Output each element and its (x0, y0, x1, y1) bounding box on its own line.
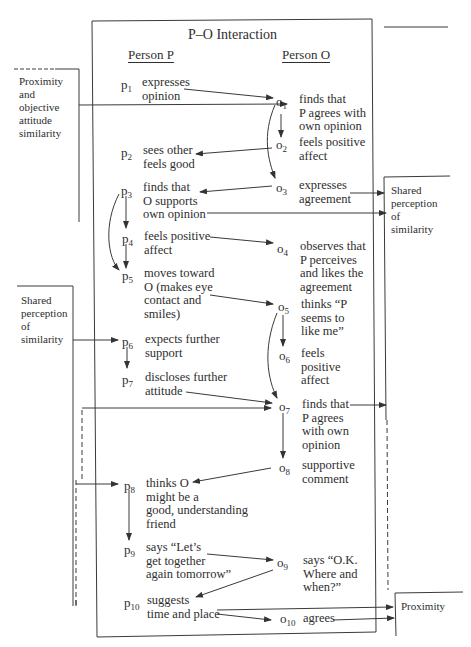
p2-text: sees other feels good (143, 144, 195, 171)
p6-text: expects further support (145, 333, 220, 360)
o10-text: agrees (303, 612, 335, 626)
o9-label: o9 (277, 556, 288, 575)
p5-label: p5 (122, 269, 133, 288)
p7-label: p7 (122, 373, 133, 392)
o2-label: o2 (276, 138, 287, 157)
o2-text: feels positive affect (299, 136, 365, 163)
o5-label: o5 (278, 300, 289, 319)
right-bottom-box (395, 592, 463, 593)
o4-text: observes that P perceives and likes the … (300, 240, 366, 294)
p6-label: p6 (122, 335, 133, 354)
o3-label: o3 (276, 181, 287, 200)
p4-text: feels positive affect (144, 230, 210, 257)
p3-text: finds that O supports own opinion (143, 181, 206, 222)
p10-text: suggests time and place (147, 594, 220, 621)
p1-text: expresses opinion (142, 76, 190, 103)
diagram-connectors (0, 0, 471, 647)
p8-text: thinks O might be a good, understanding … (146, 477, 248, 531)
p4-label: p4 (122, 232, 133, 251)
o7-label: o7 (279, 400, 290, 419)
right-box-shared-perception: Shared perception of similarity (391, 184, 437, 236)
p7-text: discloses further attitude (145, 371, 227, 398)
o6-label: o6 (279, 349, 290, 368)
o8-text: supportive comment (302, 459, 355, 486)
column-header-person-p: Person P (128, 48, 174, 62)
o8-label: o8 (279, 461, 290, 480)
o1-label: o1 (276, 95, 287, 114)
p10-label: p10 (124, 596, 140, 615)
diagram-title: P–O Interaction (188, 28, 277, 42)
o5-text: thinks “P seems to like me” (301, 298, 347, 339)
p9-label: p9 (124, 543, 135, 562)
p5-text: moves toward O (makes eye contact and sm… (144, 267, 214, 321)
left-box-proximity-similarity: Proximity and objective attitude similar… (19, 75, 63, 140)
p3-label: p3 (121, 184, 132, 203)
o3-text: expresses agreement (299, 179, 351, 206)
p1-label: p1 (121, 78, 132, 97)
o4-label: o4 (277, 242, 288, 261)
o7-text: finds that P agrees with own opinion (302, 398, 349, 452)
p2-label: p2 (121, 146, 132, 165)
o10-label: o10 (280, 612, 296, 631)
o9-text: says “O.K. Where and when?” (303, 554, 358, 595)
column-header-person-o: Person O (282, 48, 330, 62)
left-box-shared-perception: Shared perception of similarity (21, 294, 67, 346)
right-box-proximity: Proximity (401, 600, 445, 613)
p9-text: says “Let’s get together again tomorrow” (146, 541, 231, 582)
p8-label: p8 (124, 479, 135, 498)
o6-text: feels positive affect (301, 347, 341, 388)
o1-text: finds that P agrees with own opinion (299, 93, 366, 134)
